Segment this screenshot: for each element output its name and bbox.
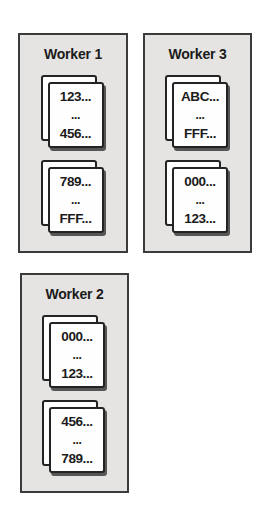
key-range-end: 456... xyxy=(60,127,91,141)
worker-2-title: Worker 2 xyxy=(45,286,103,302)
page-front-sheet: 123... ... 456... xyxy=(48,82,104,148)
worker-box-2: Worker 2 000... ... 123... 456... ... 78… xyxy=(20,273,129,493)
worker-3-stacks: ABC... ... FFF... 000... ... 123... xyxy=(165,75,230,236)
worker-3-document-stack-2: 000... ... 123... xyxy=(165,160,230,236)
key-range-start: 789... xyxy=(60,175,91,189)
page-front-sheet: 000... ... 123... xyxy=(172,167,228,233)
key-range-end: 123... xyxy=(184,212,215,226)
key-range-end: 789... xyxy=(61,452,92,466)
worker-3-title: Worker 3 xyxy=(168,46,226,62)
key-range-start: ABC... xyxy=(181,90,219,104)
ellipsis: ... xyxy=(196,112,205,119)
worker-2-stacks: 000... ... 123... 456... ... 789... xyxy=(42,315,107,476)
ellipsis: ... xyxy=(73,437,82,444)
page-front-sheet: ABC... ... FFF... xyxy=(172,82,228,148)
key-range-start: 000... xyxy=(184,175,215,189)
page-front-sheet: 000... ... 123... xyxy=(49,322,105,388)
worker-2-document-stack-2: 456... ... 789... xyxy=(42,400,107,476)
ellipsis: ... xyxy=(73,352,82,359)
key-range-end: FFF... xyxy=(184,127,216,141)
key-range-start: 000... xyxy=(61,330,92,344)
worker-3-document-stack-1: ABC... ... FFF... xyxy=(165,75,230,151)
worker-1-document-stack-2: 789... ... FFF... xyxy=(41,160,106,236)
ellipsis: ... xyxy=(71,197,80,204)
key-range-start: 456... xyxy=(61,415,92,429)
worker-box-1: Worker 1 123... ... 456... 789... ... FF… xyxy=(18,33,128,253)
key-range-end: FFF... xyxy=(59,212,91,226)
worker-1-title: Worker 1 xyxy=(44,46,102,62)
worker-box-3: Worker 3 ABC... ... FFF... 000... ... 12… xyxy=(143,33,252,253)
ellipsis: ... xyxy=(196,197,205,204)
worker-1-document-stack-1: 123... ... 456... xyxy=(41,75,106,151)
page-front-sheet: 456... ... 789... xyxy=(49,407,105,473)
key-range-start: 123... xyxy=(60,90,91,104)
key-range-end: 123... xyxy=(61,367,92,381)
worker-2-document-stack-1: 000... ... 123... xyxy=(42,315,107,391)
page-front-sheet: 789... ... FFF... xyxy=(48,167,104,233)
ellipsis: ... xyxy=(71,112,80,119)
sharding-workers-diagram: Worker 1 123... ... 456... 789... ... FF… xyxy=(0,0,265,512)
worker-1-stacks: 123... ... 456... 789... ... FFF... xyxy=(41,75,106,236)
